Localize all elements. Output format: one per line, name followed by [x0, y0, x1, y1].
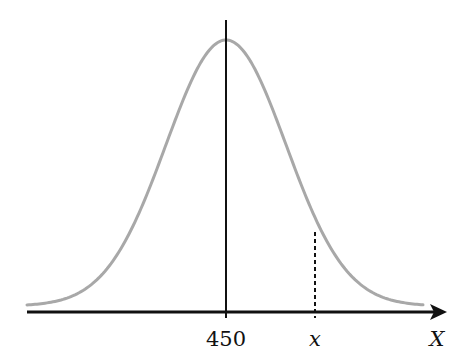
x-marker-label: x [309, 327, 321, 351]
normal-curve-diagram: 450 x X [0, 0, 459, 364]
axis-label: X [428, 327, 446, 351]
mean-tick-label: 450 [206, 327, 246, 351]
